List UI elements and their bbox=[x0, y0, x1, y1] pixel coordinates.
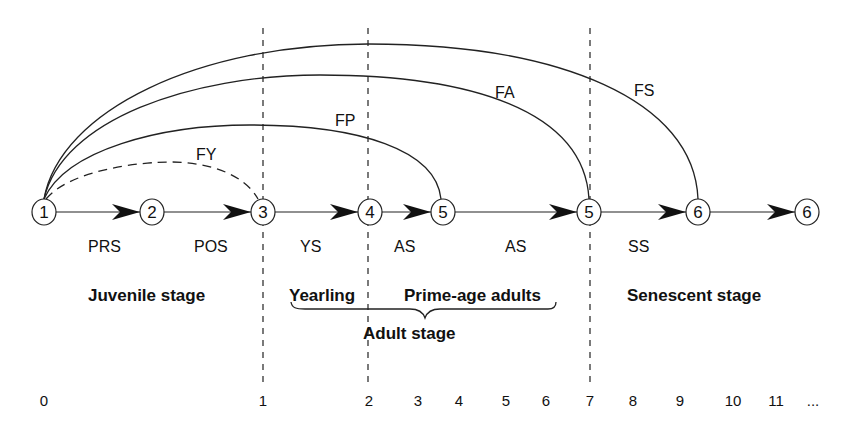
age-tick-label: 9 bbox=[676, 392, 684, 409]
age-tick-label: 11 bbox=[768, 392, 784, 409]
stage-label-yearling: Yearling bbox=[289, 286, 355, 305]
transition-labels: PRSPOSYSASASSS bbox=[88, 238, 649, 255]
stage-node: 4 bbox=[358, 199, 382, 225]
stage-node: 1 bbox=[32, 199, 56, 225]
node-label: 6 bbox=[693, 203, 702, 222]
life-cycle-diagram: FY FP FA FS 12345566 PRSPOSYSASASSS Juve… bbox=[0, 0, 849, 433]
age-tick-label: 1 bbox=[259, 392, 267, 409]
arc-label-fy: FY bbox=[196, 146, 217, 163]
arc-fy bbox=[46, 162, 258, 199]
age-tick-label: 3 bbox=[414, 392, 422, 409]
stage-node: 5 bbox=[431, 199, 455, 225]
age-axis: 01234567891011... bbox=[40, 392, 819, 409]
age-tick-label: ... bbox=[807, 392, 820, 409]
stage-label-senescent: Senescent stage bbox=[627, 286, 761, 305]
node-label: 5 bbox=[438, 203, 447, 222]
age-tick-label: 8 bbox=[629, 392, 637, 409]
age-tick-label: 4 bbox=[455, 392, 463, 409]
node-label: 4 bbox=[365, 203, 374, 222]
transition-label: POS bbox=[194, 238, 228, 255]
stage-node: 6 bbox=[795, 199, 819, 225]
node-label: 1 bbox=[39, 203, 48, 222]
transition-label: YS bbox=[300, 238, 321, 255]
arc-fs bbox=[44, 44, 698, 199]
stage-node: 2 bbox=[140, 199, 164, 225]
age-tick-label: 6 bbox=[542, 392, 550, 409]
transition-label: AS bbox=[394, 238, 415, 255]
stage-node: 5 bbox=[577, 199, 601, 225]
stage-node: 6 bbox=[686, 199, 710, 225]
arc-label-fa: FA bbox=[495, 84, 515, 101]
node-label: 3 bbox=[258, 203, 267, 222]
transition-label: AS bbox=[505, 238, 526, 255]
age-tick-label: 5 bbox=[502, 392, 510, 409]
stage-label-juvenile: Juvenile stage bbox=[88, 286, 205, 305]
arc-fp bbox=[44, 125, 441, 199]
age-tick-label: 0 bbox=[40, 392, 48, 409]
arc-label-fs: FS bbox=[634, 82, 654, 99]
stage-label-adult: Adult stage bbox=[363, 324, 456, 343]
node-label: 2 bbox=[147, 203, 156, 222]
transition-label: PRS bbox=[88, 238, 121, 255]
stage-node: 3 bbox=[251, 199, 275, 225]
transition-label: SS bbox=[628, 238, 649, 255]
stage-label-prime-age: Prime-age adults bbox=[404, 286, 541, 305]
age-tick-label: 10 bbox=[725, 392, 742, 409]
arc-label-fp: FP bbox=[335, 112, 355, 129]
node-label: 6 bbox=[802, 203, 811, 222]
age-tick-label: 2 bbox=[365, 392, 373, 409]
node-label: 5 bbox=[584, 203, 593, 222]
age-tick-label: 7 bbox=[586, 392, 594, 409]
